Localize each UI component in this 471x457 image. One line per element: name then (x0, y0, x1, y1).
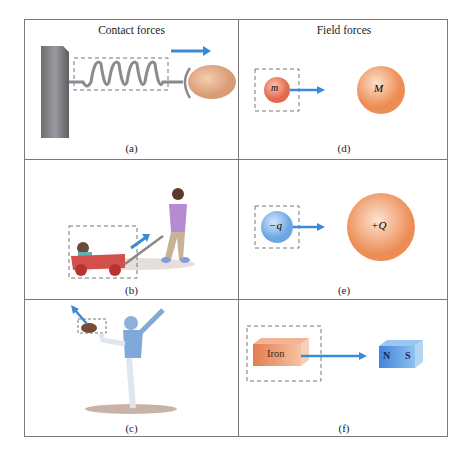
force-arrow-icon (203, 46, 211, 56)
player-icon (123, 330, 143, 358)
caption-a: (a) (25, 142, 238, 154)
force-arrow-icon (317, 223, 325, 231)
panel-a: Contact forces (a) (25, 20, 238, 159)
label-m: m (271, 82, 278, 93)
wall-icon (41, 46, 69, 138)
label-north: N (383, 350, 390, 361)
football-icon (81, 323, 97, 333)
hand-icon (188, 65, 236, 99)
panel-e: −q +Q (e) (239, 160, 449, 299)
label-iron: Iron (267, 348, 285, 359)
panel-f: Iron N S (f) (239, 300, 449, 438)
magnet-illustration (239, 300, 449, 438)
label-plus-Q: +Q (371, 219, 386, 231)
caption-f: (f) (239, 422, 449, 434)
panel-d: Field forces m M (d) (239, 20, 449, 159)
spring-icon (69, 62, 183, 86)
label-M: M (374, 82, 383, 94)
force-diagram-grid: Contact forces (a) Field forces (24, 19, 448, 437)
child-icon (169, 204, 187, 232)
label-south: S (405, 350, 411, 361)
force-arrow-icon (317, 86, 325, 94)
label-minus-q: −q (269, 219, 282, 231)
caption-d: (d) (239, 142, 449, 154)
panel-b: (b) (25, 160, 238, 299)
caption-b: (b) (25, 284, 238, 296)
caption-e: (e) (239, 284, 449, 296)
force-arrow-icon (359, 352, 367, 360)
panel-c: (c) (25, 300, 238, 438)
spring-illustration (25, 20, 238, 159)
football-illustration (25, 300, 238, 438)
caption-c: (c) (25, 422, 238, 434)
wagon-illustration (25, 160, 238, 299)
